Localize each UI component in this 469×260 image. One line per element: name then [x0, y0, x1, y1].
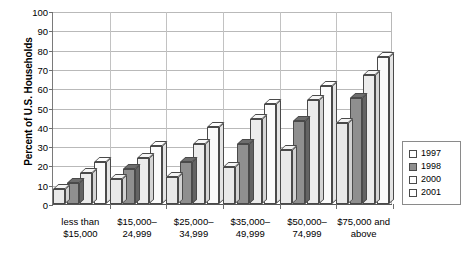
y-axis-tick-mark	[49, 128, 53, 129]
y-axis-tick-label: 10	[37, 180, 48, 191]
bar-side-face	[92, 169, 97, 204]
y-axis-tick-label: 60	[37, 84, 48, 95]
y-axis-title: Percent of U.S. Households	[23, 12, 34, 192]
y-axis-tick-mark	[49, 147, 53, 148]
y-axis-tick-label: 90	[37, 26, 48, 37]
legend-swatch	[409, 163, 417, 171]
legend-swatch	[409, 150, 417, 158]
y-axis-tick-mark	[49, 89, 53, 90]
bar-1997-cat4	[280, 150, 292, 204]
bar-front-face	[53, 189, 65, 204]
legend-label: 2000	[421, 175, 441, 184]
bar-1997-cat3	[223, 167, 235, 204]
bar-side-face	[262, 115, 267, 204]
legend-label: 1998	[421, 162, 441, 171]
bar-side-face	[348, 118, 353, 204]
x-axis-label: $75,000 andabove	[335, 216, 392, 240]
x-axis-label: less than$15,000	[52, 216, 109, 240]
bar-side-face	[305, 117, 310, 204]
y-axis-tick-mark	[49, 12, 53, 13]
bar-front-face	[336, 123, 348, 204]
legend-label: 2001	[421, 188, 441, 197]
x-axis-label: $35,000–49,999	[222, 216, 279, 240]
x-axis-label-line: $35,000–	[222, 216, 279, 228]
x-axis-label-line: 74,999	[279, 228, 336, 240]
bar-side-face	[292, 145, 297, 204]
y-axis-tick-label: 40	[37, 122, 48, 133]
bar-front-face	[280, 150, 292, 204]
y-axis-tick-mark	[49, 109, 53, 110]
y-axis-tick-label: 0	[43, 200, 48, 211]
y-axis-tick-mark	[49, 31, 53, 32]
bar-side-face	[135, 165, 140, 204]
chart-container: Percent of U.S. Households 0102030405060…	[0, 0, 469, 260]
legend-swatch	[409, 189, 417, 197]
x-axis-label-line: $15,000–	[109, 216, 166, 228]
x-axis-tick-mark	[336, 204, 337, 209]
x-axis-tick-mark	[110, 204, 111, 209]
legend-item-2001[interactable]: 2001	[409, 186, 456, 199]
x-axis-label: $15,000–24,999	[109, 216, 166, 240]
bar-side-face	[375, 70, 380, 204]
y-axis-tick-mark	[49, 205, 53, 206]
bar-1997-cat2	[166, 177, 178, 204]
y-axis-tick-mark	[49, 70, 53, 71]
legend-item-1998[interactable]: 1998	[409, 160, 456, 173]
y-axis-tick-label: 50	[37, 103, 48, 114]
bar-side-face	[389, 53, 394, 204]
bar-side-face	[205, 140, 210, 204]
bar-side-face	[319, 95, 324, 204]
x-axis-label-line: $75,000 and	[335, 216, 392, 228]
x-axis-label-line: $15,000	[52, 228, 109, 240]
legend-item-2000[interactable]: 2000	[409, 173, 456, 186]
bar-side-face	[149, 153, 154, 204]
x-axis-label-line: $50,000–	[279, 216, 336, 228]
legend-item-1997[interactable]: 1997	[409, 147, 456, 160]
y-axis-tick-label: 20	[37, 161, 48, 172]
x-axis-tick-mark	[393, 204, 394, 209]
bar-1997-cat1	[110, 179, 122, 204]
bar-side-face	[235, 163, 240, 204]
x-axis-tick-mark	[280, 204, 281, 209]
x-axis-label-line: 24,999	[109, 228, 166, 240]
y-axis-tick-mark	[49, 186, 53, 187]
y-axis-tick-mark	[49, 166, 53, 167]
bar-1997-cat0	[53, 189, 65, 204]
x-axis-tick-mark	[223, 204, 224, 209]
bar-front-face	[166, 177, 178, 204]
x-axis-label-line: 49,999	[222, 228, 279, 240]
x-axis-label-line: above	[335, 228, 392, 240]
y-axis-tick-label: 80	[37, 45, 48, 56]
bar-side-face	[362, 93, 367, 204]
y-axis-tick-label: 70	[37, 64, 48, 75]
plot-area: 0102030405060708090100	[52, 12, 392, 205]
x-axis-label-line: $25,000–	[165, 216, 222, 228]
x-axis-label-line: less than	[52, 216, 109, 228]
bar-side-face	[122, 174, 127, 204]
bar-1997-cat5	[336, 123, 348, 204]
y-axis-tick-mark	[49, 51, 53, 52]
x-axis-label-line: 34,999	[165, 228, 222, 240]
legend: 1997199820002001	[402, 141, 461, 205]
x-axis-label: $25,000–34,999	[165, 216, 222, 240]
bar-side-face	[192, 157, 197, 204]
bar-front-face	[223, 167, 235, 204]
legend-label: 1997	[421, 149, 441, 158]
legend-swatch	[409, 176, 417, 184]
y-axis-tick-label: 100	[32, 7, 48, 18]
bar-side-face	[178, 172, 183, 204]
x-axis-tick-mark	[166, 204, 167, 209]
bar-side-face	[249, 140, 254, 204]
y-axis-tick-label: 30	[37, 142, 48, 153]
bar-front-face	[110, 179, 122, 204]
x-axis-label: $50,000–74,999	[279, 216, 336, 240]
